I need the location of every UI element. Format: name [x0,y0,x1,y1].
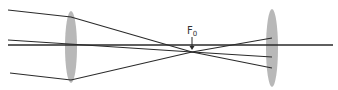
left-lens [65,11,77,83]
ray-diagram: F0 [0,0,338,90]
diagram-canvas [0,0,338,90]
bottom-ray [10,38,272,80]
focal-point-label: F0 [187,26,197,38]
center-ray [8,40,272,57]
top-ray [8,10,272,68]
right-lens [266,9,278,87]
focal-arrow-icon [190,37,195,50]
focal-label-subscript: 0 [193,30,197,38]
lenses-group [65,9,278,87]
